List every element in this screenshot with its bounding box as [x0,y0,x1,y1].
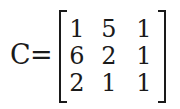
equals-sign: = [30,40,53,70]
matrix-cell: 2 [99,43,119,69]
matrix-cell: 1 [67,16,87,42]
right-bracket [158,10,166,103]
matrix-cell: 1 [134,43,154,69]
matrix-cell: 2 [67,70,87,96]
matrix-cell: 1 [134,70,154,96]
matrix-name: C [10,40,31,70]
matrix-cell: 6 [67,43,87,69]
matrix-cell: 1 [99,70,119,96]
matrix-cell: 1 [134,16,154,42]
matrix-cell: 5 [99,16,119,42]
left-bracket [59,10,67,103]
